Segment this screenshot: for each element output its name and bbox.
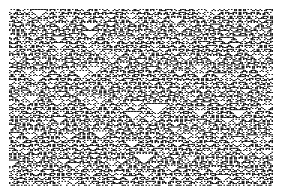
cellular-automaton-figure: Rule 90 elementary cellular automaton fr… [0,0,283,194]
cellular-automaton-canvas [0,0,283,194]
